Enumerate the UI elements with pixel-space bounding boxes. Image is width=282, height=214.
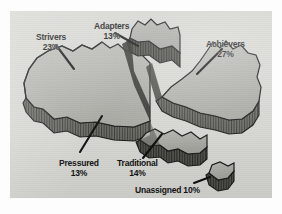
label-achievers: Achievers 27% [206, 40, 245, 59]
label-unassigned-pct: 10% [183, 185, 199, 195]
label-traditional-pct: 14% [117, 169, 158, 179]
label-achievers-pct: 27% [206, 50, 245, 60]
label-unassigned-name: Unassigned [135, 185, 181, 195]
label-pressured: Pressured 13% [59, 159, 99, 178]
figure-page: Strivers 23% Adapters 13% Achievers 27% … [0, 0, 282, 214]
figure-panel: Strivers 23% Adapters 13% Achievers 27% … [10, 11, 272, 198]
label-traditional: Traditional 14% [117, 159, 158, 178]
label-unassigned: Unassigned 10% [135, 186, 200, 196]
label-pressured-pct: 13% [59, 169, 99, 179]
label-strivers-pct: 23% [36, 43, 66, 53]
label-adapters: Adapters 13% [94, 22, 129, 41]
label-adapters-pct: 13% [94, 32, 129, 42]
label-strivers: Strivers 23% [36, 33, 66, 52]
